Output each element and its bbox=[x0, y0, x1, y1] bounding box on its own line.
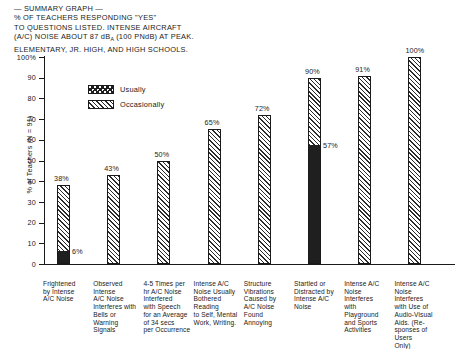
category-label-4-line-3: Bothered Reading bbox=[194, 295, 242, 310]
category-label-1: Frightenedby IntenseA/C Noise bbox=[43, 280, 91, 303]
y-tick-label-90: 90 bbox=[2, 74, 36, 81]
category-label-5-line-3: Caused by bbox=[244, 295, 292, 303]
category-label-4-line-5: Work, Writing. bbox=[194, 319, 242, 327]
y-tick-label-0: 0 bbox=[2, 261, 36, 268]
category-label-8-line-5: Aids. (Re- bbox=[394, 319, 442, 327]
y-tick-0 bbox=[39, 264, 44, 265]
bar-6 bbox=[308, 78, 321, 264]
y-axis-label: % of Teachers (N = 91) bbox=[25, 100, 34, 210]
legend-swatch-usually-icon bbox=[88, 85, 114, 94]
bar-6-segment-usually bbox=[309, 145, 320, 263]
category-label-4: Intense A/CNoise UsuallyBothered Reading… bbox=[194, 280, 242, 326]
category-label-3-line-5: for an Average bbox=[143, 311, 191, 319]
category-label-6-line-2: Distracted by bbox=[294, 288, 342, 296]
category-label-3-line-6: of 34 secs bbox=[143, 319, 191, 327]
y-tick-60 bbox=[39, 140, 44, 141]
y-tick-100 bbox=[39, 57, 44, 58]
category-label-8-line-6: sponses of Users bbox=[394, 326, 442, 341]
category-label-2-line-5: Warning Signals bbox=[93, 319, 141, 334]
category-label-5-line-2: Vibrations bbox=[244, 288, 292, 296]
bar-5 bbox=[258, 115, 271, 264]
bar-8-value-label: 100% bbox=[405, 47, 424, 54]
category-label-5-line-5: Found bbox=[244, 311, 292, 319]
y-tick-80 bbox=[39, 98, 44, 99]
category-label-8-line-2: Noise Interferes bbox=[394, 288, 442, 303]
y-tick-label-10: 10 bbox=[2, 240, 36, 247]
bar-6-value-label: 90% bbox=[305, 68, 320, 75]
bar-4-value-label: 65% bbox=[205, 119, 220, 126]
category-label-3: 4-5 Times perhr A/C NoiseInterferedwith … bbox=[143, 280, 191, 334]
bar-3-value-label: 50% bbox=[154, 151, 169, 158]
category-label-2-line-2: A/C Noise bbox=[93, 295, 141, 303]
category-label-1-line-3: A/C Noise bbox=[43, 295, 91, 303]
bar-6-usually-pattern bbox=[309, 145, 320, 263]
y-tick-label-20: 20 bbox=[2, 219, 36, 226]
y-tick-90 bbox=[39, 78, 44, 79]
category-label-7-line-5: Activities bbox=[344, 326, 392, 334]
category-label-1-line-1: Frightened bbox=[43, 280, 91, 288]
category-label-2: Observed IntenseA/C NoiseInterferes with… bbox=[93, 280, 141, 334]
category-label-2-line-3: Interferes with bbox=[93, 303, 141, 311]
y-tick-50 bbox=[39, 161, 44, 162]
category-label-2-line-1: Observed Intense bbox=[93, 280, 141, 295]
bar-1-segment-usually bbox=[58, 251, 69, 263]
legend: Usually Occasionally bbox=[88, 85, 198, 111]
legend-item-occasionally: Occasionally bbox=[88, 100, 198, 109]
bar-7 bbox=[358, 76, 371, 264]
category-label-3-line-2: hr A/C Noise bbox=[143, 288, 191, 296]
bar-1 bbox=[57, 185, 70, 264]
y-tick-10 bbox=[39, 243, 44, 244]
bar-5-segment-occasionally bbox=[259, 116, 270, 263]
category-label-7: Intense A/CNoise Interfereswith Playgrou… bbox=[344, 280, 392, 334]
bar-7-segment-occasionally bbox=[359, 77, 370, 263]
bar-8-segment-occasionally bbox=[409, 58, 420, 263]
y-tick-70 bbox=[39, 119, 44, 120]
bar-7-value-label: 91% bbox=[355, 66, 370, 73]
category-label-6-line-1: Startled or bbox=[294, 280, 342, 288]
category-label-5: StructureVibrationsCaused byA/C NoiseFou… bbox=[244, 280, 292, 326]
y-tick-40 bbox=[39, 181, 44, 182]
category-label-7-line-3: with Playground bbox=[344, 303, 392, 318]
bar-6-usually-value-label: 57% bbox=[323, 142, 338, 149]
category-label-5-line-1: Structure bbox=[244, 280, 292, 288]
bar-2-value-label: 43% bbox=[104, 165, 119, 172]
category-label-3-line-3: Interfered bbox=[143, 295, 191, 303]
category-label-7-line-2: Noise Interferes bbox=[344, 288, 392, 303]
category-label-3-line-1: 4-5 Times per bbox=[143, 280, 191, 288]
category-label-6: Startled orDistracted byIntense A/CNoise bbox=[294, 280, 342, 311]
bar-2 bbox=[107, 175, 120, 264]
category-label-8-line-7: Only) bbox=[394, 342, 442, 349]
legend-label-usually: Usually bbox=[120, 86, 146, 94]
bar-3 bbox=[157, 161, 170, 265]
category-label-7-line-1: Intense A/C bbox=[344, 280, 392, 288]
category-label-4-line-4: to Self, Mental bbox=[194, 311, 242, 319]
bar-5-value-label: 72% bbox=[255, 105, 270, 112]
legend-swatch-occasionally-icon bbox=[88, 100, 114, 109]
bar-3-segment-occasionally bbox=[158, 162, 169, 264]
category-label-5-line-6: Annoying bbox=[244, 319, 292, 327]
category-label-1-line-2: by Intense bbox=[43, 288, 91, 296]
bar-1-value-label: 38% bbox=[54, 175, 69, 182]
category-label-4-line-1: Intense A/C bbox=[194, 280, 242, 288]
bar-1-usually-value-label: 6% bbox=[72, 248, 83, 255]
category-label-8-line-4: Audio-Visual bbox=[394, 311, 442, 319]
category-label-8-line-1: Intense A/C bbox=[394, 280, 442, 288]
bar-4 bbox=[208, 129, 221, 264]
bar-1-usually-pattern bbox=[58, 251, 69, 263]
category-label-8: Intense A/CNoise Interfereswith Use ofAu… bbox=[394, 280, 442, 349]
bar-4-segment-occasionally bbox=[209, 130, 220, 263]
category-label-2-line-4: Bells or bbox=[93, 311, 141, 319]
bar-8 bbox=[408, 57, 421, 264]
category-label-3-line-4: with Speech bbox=[143, 303, 191, 311]
x-axis-line bbox=[44, 264, 455, 265]
y-tick-20 bbox=[39, 223, 44, 224]
category-label-4-line-2: Noise Usually bbox=[194, 288, 242, 296]
category-label-5-line-4: A/C Noise bbox=[244, 303, 292, 311]
category-label-6-line-4: Noise bbox=[294, 303, 342, 311]
category-label-8-line-3: with Use of bbox=[394, 303, 442, 311]
y-tick-label-100: 100% bbox=[2, 54, 36, 61]
y-tick-30 bbox=[39, 202, 44, 203]
y-axis-line bbox=[44, 56, 45, 265]
